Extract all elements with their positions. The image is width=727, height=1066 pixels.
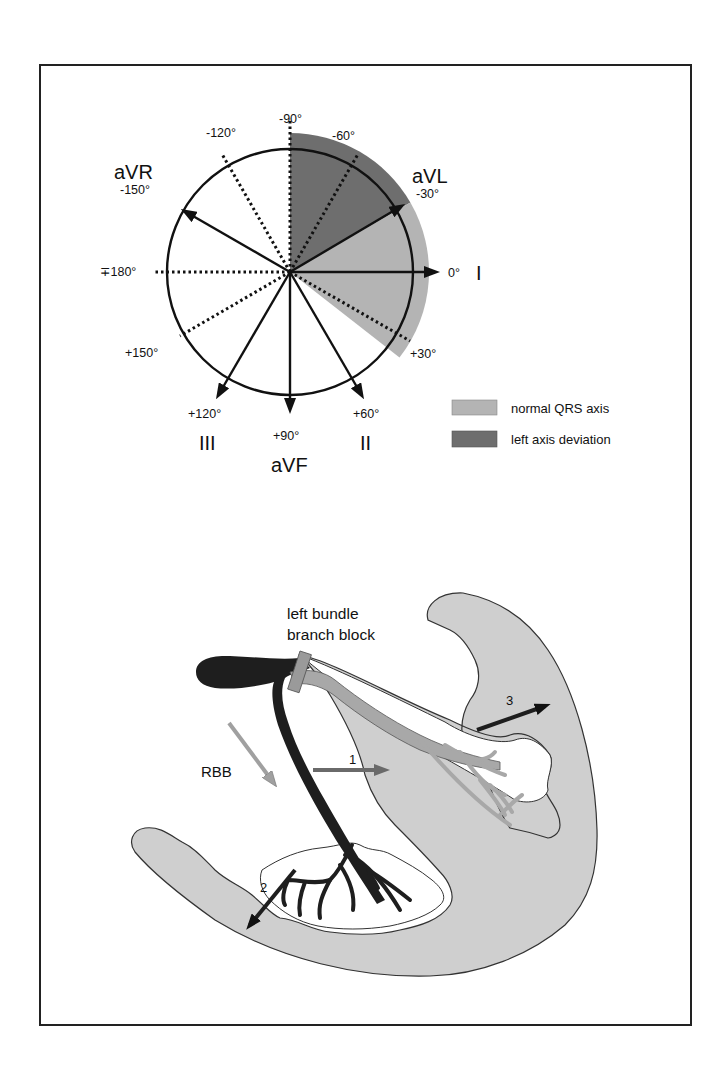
angle-label-m150: -150°	[120, 183, 150, 197]
angle-label-p90: +90°	[273, 429, 299, 443]
rbb-label: RBB	[201, 763, 232, 780]
angle-label-m60: -60°	[332, 129, 355, 143]
legend-swatch-lad	[452, 431, 497, 447]
arrow-1-label: 1	[349, 752, 356, 767]
angle-label-p30: +30°	[410, 347, 436, 361]
conduction-diagram: left bundle branch block RBB 1 2 3	[132, 593, 597, 976]
legend-label-normal: normal QRS axis	[511, 401, 610, 416]
legend-swatch-normal	[452, 400, 497, 415]
angle-label-m30: -30°	[416, 187, 439, 201]
lead-label-II: II	[360, 432, 371, 454]
hexaxial-diagram: -90° -120° -60° -150° -30° ∓180° 0° +30°…	[100, 112, 611, 476]
angle-label-m90: -90°	[279, 112, 302, 126]
legend-label-lad: left axis deviation	[511, 432, 611, 447]
angle-label-m120: -120°	[206, 126, 236, 140]
angle-label-p120: +120°	[188, 407, 221, 421]
block-label-line1: left bundle	[287, 605, 359, 622]
angle-label-zero: 0°	[448, 266, 460, 280]
lead-III-arrow	[219, 272, 290, 394]
angle-label-p150: +150°	[125, 346, 158, 360]
lead-label-aVF: aVF	[271, 454, 308, 476]
legend: normal QRS axis left axis deviation	[452, 400, 611, 447]
lead-label-aVL: aVL	[412, 165, 448, 187]
lead-label-III: III	[199, 432, 216, 454]
rbb-arrow	[229, 723, 273, 782]
figure-canvas: -90° -120° -60° -150° -30° ∓180° 0° +30°…	[0, 0, 727, 1066]
angle-label-p180: ∓180°	[100, 265, 136, 279]
arrow-2-label: 2	[260, 880, 267, 895]
angle-label-p60: +60°	[353, 407, 379, 421]
lead-label-aVR: aVR	[114, 161, 153, 183]
lead-label-I: I	[476, 262, 482, 284]
block-label-line2: branch block	[287, 626, 375, 643]
arrow-3-label: 3	[506, 693, 513, 708]
